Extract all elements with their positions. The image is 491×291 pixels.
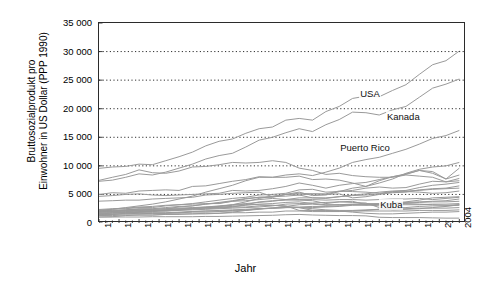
series-annotation: Kanada bbox=[386, 111, 421, 122]
series-line bbox=[99, 161, 459, 182]
x-axis-title: Jahr bbox=[0, 262, 491, 274]
series-annotation: Kuba bbox=[379, 199, 403, 210]
series-annotation: Puerto Rico bbox=[339, 142, 391, 153]
series-lines bbox=[99, 23, 466, 223]
series-annotation: USA bbox=[359, 88, 381, 99]
series-line bbox=[99, 51, 459, 168]
chart-figure: Bruttosozialprodukt pro Einwohner in US … bbox=[0, 0, 491, 291]
plot-area: USAKanadaPuerto RicoKuba bbox=[98, 22, 465, 222]
